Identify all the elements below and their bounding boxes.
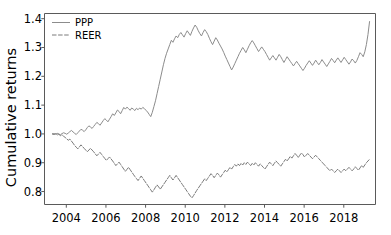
legend[interactable]: PPPREER (52, 17, 102, 40)
series-line-reer (52, 134, 369, 198)
data-series-group (52, 22, 369, 198)
tick-marks (41, 19, 343, 208)
legend-label-reer: REER (75, 30, 102, 41)
plot-canvas: PPPREER (0, 0, 391, 235)
legend-label-ppp: PPP (75, 17, 93, 28)
figure: Cumulative returns 0.80.91.01.11.21.31.4… (0, 0, 391, 235)
